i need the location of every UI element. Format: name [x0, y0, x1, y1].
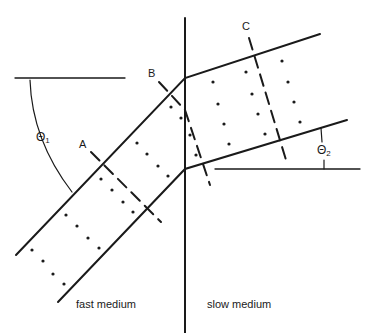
theta2-arc-upper: [321, 128, 322, 142]
wavefront-c: [249, 38, 286, 160]
label-c: C: [242, 21, 250, 32]
refraction-diagram: A B C Θ1 Θ2 fast medium slow medium: [0, 0, 372, 333]
theta2-subscript: 2: [326, 149, 330, 158]
label-b: B: [148, 68, 155, 79]
upper-beam-edge: [16, 34, 320, 255]
label-theta1: Θ1: [36, 131, 50, 145]
theta1-symbol: Θ: [36, 130, 45, 144]
lower-beam-edge: [58, 120, 347, 302]
diagram-graphics: [0, 0, 372, 333]
theta2-symbol: Θ: [317, 143, 326, 157]
wave-dots: [30, 59, 301, 285]
label-fast-medium: fast medium: [76, 299, 136, 310]
label-theta2: Θ2: [317, 144, 331, 158]
label-a: A: [79, 139, 86, 150]
wavefront-a: [91, 152, 161, 222]
label-slow-medium: slow medium: [207, 299, 271, 310]
theta1-subscript: 1: [45, 136, 49, 145]
